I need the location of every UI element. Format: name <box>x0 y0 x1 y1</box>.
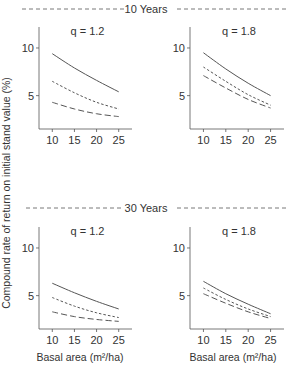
x-tick-label: 15 <box>220 134 232 146</box>
series-line-short-dash <box>203 288 270 317</box>
x-tick-label: 20 <box>90 334 102 346</box>
x-tick-label: 25 <box>113 134 125 146</box>
y-tick-label: 10 <box>22 242 34 254</box>
x-axis-label-left: Basal area (m²/ha) <box>37 351 124 363</box>
x-tick-label: 15 <box>68 334 80 346</box>
y-tick-label: 5 <box>179 290 185 302</box>
series-line-long-dash <box>203 294 270 319</box>
x-tick-label: 25 <box>264 334 276 346</box>
x-tick-label: 20 <box>242 134 254 146</box>
x-tick-label: 10 <box>46 334 58 346</box>
section-header-10-years: 10 Years <box>22 3 288 15</box>
x-tick-label: 10 <box>197 334 209 346</box>
y-tick-label: 10 <box>173 42 185 54</box>
x-tick-label: 25 <box>264 134 276 146</box>
x-tick-label: 15 <box>68 134 80 146</box>
section-header-30-years: 30 Years <box>26 202 288 214</box>
x-tick-label: 25 <box>113 334 125 346</box>
series-line-short-dash <box>52 81 118 109</box>
y-tick-label: 10 <box>173 242 185 254</box>
y-tick-label: 5 <box>179 90 185 102</box>
x-axis-label-right: Basal area (m²/ha) <box>190 351 277 363</box>
series-line-long-dash <box>52 102 118 116</box>
x-tick-label: 15 <box>220 334 232 346</box>
panel-title: q = 1.8 <box>222 25 256 37</box>
section-title: 10 Years <box>125 3 168 15</box>
chart-panel: q = 1.251010152025 <box>22 225 132 346</box>
panel-title: q = 1.2 <box>71 225 105 237</box>
series-line-solid <box>203 53 270 96</box>
chart-panel: q = 1.251010152025 <box>22 25 132 146</box>
figure: 10 Years 30 Years Compound rate of retur… <box>0 0 288 365</box>
y-tick-label: 5 <box>28 290 34 302</box>
series-line-solid <box>52 283 118 309</box>
series-line-short-dash <box>203 67 270 105</box>
x-tick-label: 20 <box>242 334 254 346</box>
x-tick-label: 20 <box>90 134 102 146</box>
x-tick-label: 10 <box>197 134 209 146</box>
chart-panel: q = 1.851010152025 <box>173 25 284 146</box>
series-line-long-dash <box>52 312 118 322</box>
y-axis-label: Compound rate of return on initial stand… <box>0 77 12 309</box>
y-tick-label: 5 <box>28 90 34 102</box>
panel-title: q = 1.8 <box>222 225 256 237</box>
series-line-long-dash <box>203 76 270 108</box>
panel-title: q = 1.2 <box>71 25 105 37</box>
x-tick-label: 10 <box>46 134 58 146</box>
section-title: 30 Years <box>125 202 168 214</box>
y-tick-label: 10 <box>22 42 34 54</box>
chart-panel: q = 1.851010152025 <box>173 225 284 346</box>
